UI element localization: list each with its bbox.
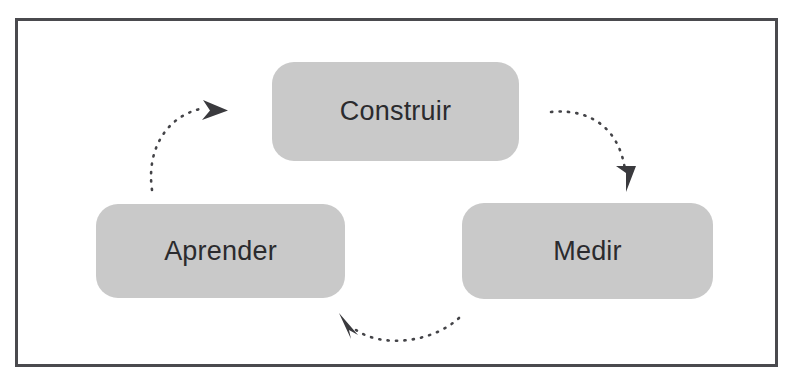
node-construir[interactable]: Construir: [272, 62, 519, 161]
node-aprender-label: Aprender: [164, 238, 277, 265]
node-construir-label: Construir: [340, 98, 451, 125]
node-aprender[interactable]: Aprender: [96, 204, 345, 298]
diagram-canvas: Construir Aprender Medir: [0, 0, 791, 390]
node-medir[interactable]: Medir: [462, 203, 713, 299]
node-medir-label: Medir: [553, 238, 622, 265]
